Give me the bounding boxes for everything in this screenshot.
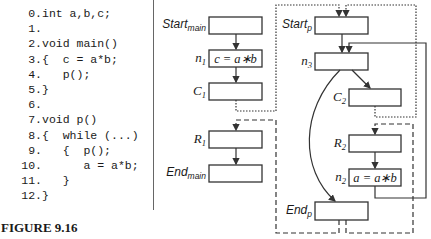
label-n2: n2 bbox=[300, 169, 346, 186]
label-c2: C2 bbox=[300, 89, 346, 106]
node-start-main bbox=[209, 17, 262, 34]
node-n3 bbox=[315, 53, 368, 70]
edge-n3-c2 bbox=[352, 70, 370, 88]
label-end-main: Endmain bbox=[150, 165, 206, 181]
n1-statement: c = a∗b bbox=[209, 51, 262, 67]
node-c2 bbox=[349, 89, 401, 106]
label-n3: n3 bbox=[270, 53, 312, 70]
node-start-p bbox=[315, 17, 368, 34]
node-end-p bbox=[315, 202, 368, 220]
n2-statement: a = a∗b bbox=[349, 170, 401, 186]
node-end-main bbox=[209, 165, 262, 182]
supergraph-diagram bbox=[0, 0, 431, 239]
label-n1: n1 bbox=[150, 50, 206, 67]
node-c1 bbox=[209, 83, 262, 100]
node-r2 bbox=[349, 135, 401, 152]
label-end-p: Endp bbox=[270, 203, 312, 219]
label-r2: R2 bbox=[300, 135, 346, 152]
node-r1 bbox=[209, 131, 262, 148]
label-start-p: Startp bbox=[270, 17, 312, 33]
label-c1: C1 bbox=[150, 83, 206, 100]
label-r1: R1 bbox=[150, 131, 206, 148]
label-start-main: Startmain bbox=[150, 17, 206, 33]
